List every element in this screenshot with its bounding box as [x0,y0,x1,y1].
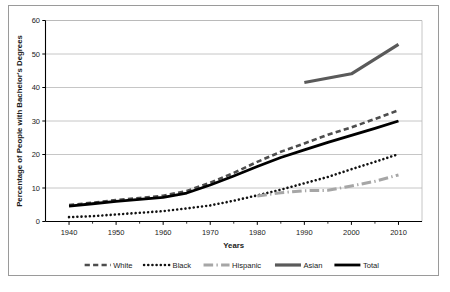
chart-legend: WhiteBlackHispanicAsianTotal [85,261,380,270]
y-tick-label: 60 [32,16,40,25]
y-tick-label: 30 [32,117,40,126]
x-tick-label: 1980 [249,228,266,237]
x-tick-label: 1990 [296,228,313,237]
y-tick-label: 10 [32,184,40,193]
x-tick-label: 1970 [202,228,219,237]
x-tick-label: 2000 [343,228,360,237]
x-tick-label: 2010 [390,228,407,237]
legend-label-black: Black [173,261,192,270]
y-tick-label: 0 [36,217,40,226]
x-axis-title: Years [223,241,244,250]
x-tick-label: 1960 [155,228,172,237]
y-tick-label: 40 [32,83,40,92]
chart-figure: 0102030405060194019501960197019801990200… [0,0,450,292]
y-tick-label: 50 [32,50,40,59]
legend-label-total: Total [363,261,379,270]
y-axis-title: Percentage of People with Bachelor's Deg… [15,34,24,206]
legend-label-hispanic: Hispanic [232,261,261,270]
legend-label-asian: Asian [303,261,322,270]
legend-label-white: White [113,261,132,270]
x-axis-ticks: 19401950196019701980199020002010 [61,222,407,237]
x-tick-label: 1940 [61,228,78,237]
bachelors-degrees-line-chart: 0102030405060194019501960197019801990200… [0,0,450,292]
x-tick-label: 1950 [108,228,125,237]
y-axis-ticks: 0102030405060 [32,16,46,226]
y-tick-label: 20 [32,150,40,159]
